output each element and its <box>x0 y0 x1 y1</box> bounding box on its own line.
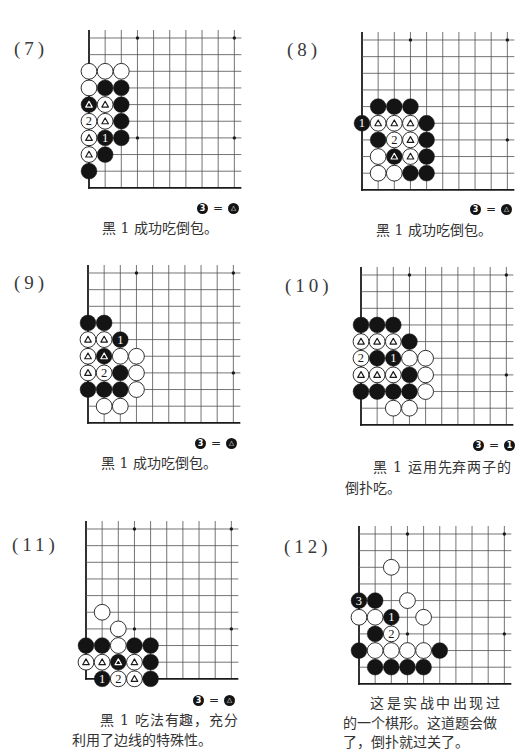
black-stone <box>96 382 112 398</box>
black-stone <box>370 99 386 115</box>
move-number: 2 <box>101 366 107 380</box>
black-stone <box>402 334 418 350</box>
black-stone: 1 <box>112 332 128 348</box>
white-stone <box>418 367 434 383</box>
black-stone <box>400 659 416 675</box>
black-stone <box>385 317 401 333</box>
star-point <box>230 627 233 630</box>
white-stone <box>370 165 386 181</box>
black-stone <box>385 384 401 400</box>
white-stone <box>110 638 126 654</box>
black-stone: 1 <box>385 350 401 366</box>
black-stone <box>367 659 383 675</box>
problem-label: (10) <box>285 276 333 296</box>
black-stone <box>112 365 128 381</box>
white-stone <box>402 350 418 366</box>
problem-label: (11) <box>12 535 59 555</box>
white-stone <box>367 643 383 659</box>
equation-note: 3 = △ <box>197 202 239 214</box>
go-board: 12 <box>76 261 245 435</box>
white-stone <box>94 654 110 670</box>
black-stone <box>94 638 110 654</box>
board-diagram: 312 <box>347 522 516 696</box>
black-stone <box>143 638 159 654</box>
go-board: 312 <box>347 522 516 696</box>
board-diagram: 12 <box>350 28 519 202</box>
caption-line: 的一个棋形。这道题会做 <box>343 715 497 731</box>
white-stone <box>80 348 96 364</box>
go-board: 12 <box>350 28 519 202</box>
caption-line: 黑 1 吃法有趣，充分 <box>100 712 239 728</box>
black-stone <box>386 149 402 165</box>
white-stone <box>78 654 94 670</box>
black-stone <box>370 132 386 148</box>
white-stone <box>96 398 112 414</box>
white-stone <box>385 400 401 416</box>
move-number: 1 <box>390 351 396 365</box>
black-stone <box>113 130 129 146</box>
star-point <box>233 136 236 139</box>
white-stone <box>129 348 145 364</box>
black-stone <box>419 165 435 181</box>
white-stone <box>418 350 434 366</box>
black-stone-triangle-icon: △ <box>501 204 512 215</box>
white-stone <box>81 130 97 146</box>
white-stone <box>416 643 432 659</box>
white-stone <box>80 365 96 381</box>
white-stone <box>351 609 367 625</box>
white-stone: 2 <box>353 350 369 366</box>
black-stone <box>416 659 432 675</box>
white-stone <box>400 593 416 609</box>
black-stone <box>80 315 96 331</box>
caption-line: 黑 1 运用先弃两子的 <box>373 459 512 475</box>
black-stone <box>402 367 418 383</box>
problem-label: (8) <box>287 40 321 60</box>
black-stone <box>78 638 94 654</box>
black-stone <box>419 149 435 165</box>
white-stone <box>112 398 128 414</box>
black-stone-triangle-icon: △ <box>228 203 239 214</box>
star-point <box>503 632 506 635</box>
move-number: 2 <box>86 114 92 128</box>
black-stone <box>113 97 129 113</box>
white-stone <box>81 63 97 79</box>
star-point <box>406 532 409 535</box>
star-point <box>505 273 508 276</box>
caption-line: 倒扑吃。 <box>345 480 401 496</box>
star-point <box>506 138 509 141</box>
star-point <box>133 627 136 630</box>
white-stone <box>369 334 385 350</box>
black-stone <box>112 382 128 398</box>
black-stone-3-icon: 3 <box>197 203 208 214</box>
star-point <box>136 36 139 39</box>
black-stone <box>383 659 399 675</box>
black-stone <box>81 163 97 179</box>
problem-label: (12) <box>284 537 332 557</box>
equation-note: 3 = △ <box>470 203 512 215</box>
white-stone <box>367 609 383 625</box>
white-stone <box>80 332 96 348</box>
move-number: 1 <box>388 610 394 624</box>
black-stone <box>81 97 97 113</box>
white-stone: 2 <box>386 132 402 148</box>
star-point <box>503 532 506 535</box>
black-stone <box>432 643 448 659</box>
black-stone <box>419 132 435 148</box>
caption-line: 黑 1 成功吃倒包。 <box>101 455 217 471</box>
white-stone <box>97 97 113 113</box>
white-stone <box>400 643 416 659</box>
black-stone <box>113 113 129 129</box>
move-number: 1 <box>102 131 108 145</box>
black-stone <box>403 99 419 115</box>
white-stone <box>97 63 113 79</box>
move-number: 1 <box>117 333 123 347</box>
white-stone <box>81 80 97 96</box>
star-point <box>135 271 138 274</box>
black-stone: 1 <box>383 609 399 625</box>
caption-line: 了，倒扑就过关了。 <box>343 734 469 750</box>
white-stone: 2 <box>81 113 97 129</box>
star-point <box>506 38 509 41</box>
white-stone <box>370 149 386 165</box>
black-stone <box>353 317 369 333</box>
white-stone <box>353 334 369 350</box>
